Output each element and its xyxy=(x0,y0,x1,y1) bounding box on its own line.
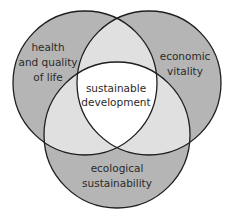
label-center-line-1: sustainable xyxy=(86,82,146,94)
venn-diagram: health and quality of life economic vita… xyxy=(0,0,230,220)
venn-svg: health and quality of life economic vita… xyxy=(0,0,230,220)
label-health-line-1: health xyxy=(31,41,64,53)
label-economic-line-1: economic xyxy=(160,50,211,62)
label-health-line-2: and quality xyxy=(18,56,77,68)
label-economic-line-2: vitality xyxy=(167,65,203,77)
label-health-line-3: of life xyxy=(33,71,62,83)
label-ecological-line-1: ecological xyxy=(91,162,144,174)
label-ecological-line-2: sustainability xyxy=(82,177,152,189)
label-center-line-2: development xyxy=(81,96,150,108)
